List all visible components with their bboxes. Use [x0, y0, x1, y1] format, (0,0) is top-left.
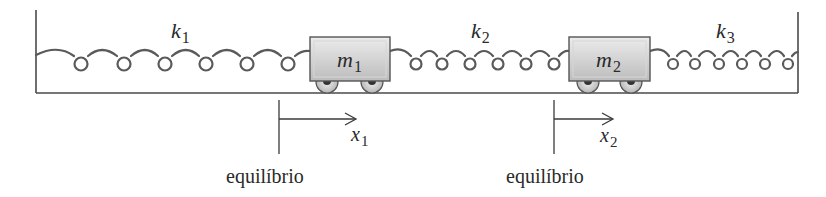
mass-spring-diagram: m1 m2 k1 k2 k3 x1 equilíbrio x2 equilíbr… — [0, 0, 826, 197]
spring-k1 — [36, 50, 310, 71]
equilibrium-label-1: equilíbrio — [226, 165, 304, 188]
x2-label: x2 — [599, 124, 617, 150]
spring-k2 — [390, 49, 569, 69]
mass-m1: m1 — [310, 37, 390, 93]
spring-k1-label: k1 — [171, 18, 190, 46]
spring-k3 — [650, 49, 798, 69]
displacement-x1 — [279, 100, 356, 154]
spring-k2-label: k2 — [471, 18, 490, 46]
x1-label: x1 — [350, 123, 368, 149]
mass-m2: m2 — [569, 37, 650, 93]
equilibrium-label-2: equilíbrio — [506, 165, 584, 188]
spring-k3-label: k3 — [716, 18, 735, 46]
